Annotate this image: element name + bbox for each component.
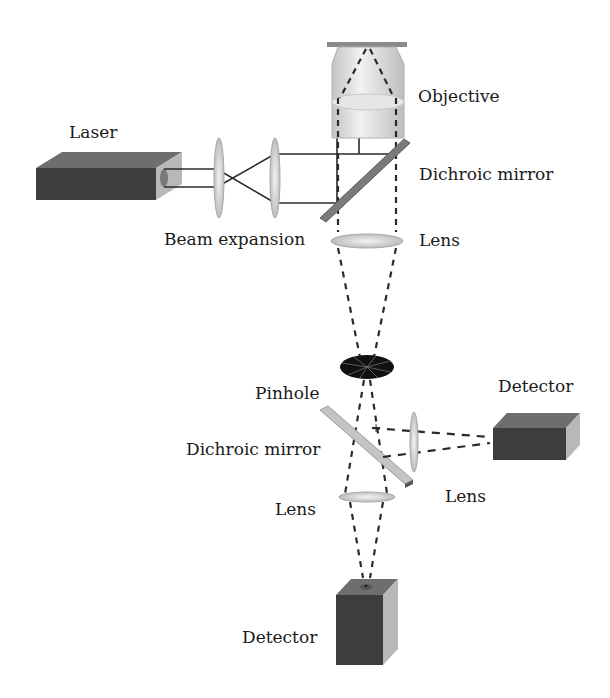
bottom-lens xyxy=(339,492,395,502)
svg-text:+: + xyxy=(371,421,381,435)
detector-right-label: Detector xyxy=(498,378,573,395)
side-lens xyxy=(410,412,418,472)
laser-label: Laser xyxy=(69,124,117,141)
bottom-detector-box xyxy=(336,579,398,665)
dichroic-mirror-bottom xyxy=(320,406,413,488)
beam-expander-lens-1 xyxy=(214,138,224,218)
confocal-diagram: + Laser Beam expansion Objective Dichroi… xyxy=(0,0,610,698)
lens-top-label: Lens xyxy=(419,232,460,249)
tube-lens xyxy=(331,234,403,248)
dichroic-mirror-bottom-label: Dichroic mirror xyxy=(186,441,320,458)
lens-right-label: Lens xyxy=(445,488,486,505)
laser-box xyxy=(36,152,182,200)
detector-bottom-label: Detector xyxy=(242,629,317,646)
emission-path-to-bottom-detector xyxy=(350,502,383,578)
pinhole xyxy=(340,355,394,379)
objective-label: Objective xyxy=(418,88,500,105)
dichroic-mirror-top-label: Dichroic mirror xyxy=(419,166,553,183)
beam-expansion-label: Beam expansion xyxy=(164,231,305,248)
beam-expander-lens-2 xyxy=(270,138,280,218)
emission-path-to-pinhole xyxy=(338,248,396,372)
lens-bottom-label: Lens xyxy=(275,501,316,518)
side-emission-path xyxy=(372,428,490,457)
side-detector-box xyxy=(493,413,580,460)
diagram-graphics: + xyxy=(0,0,610,698)
pinhole-label: Pinhole xyxy=(255,385,320,402)
